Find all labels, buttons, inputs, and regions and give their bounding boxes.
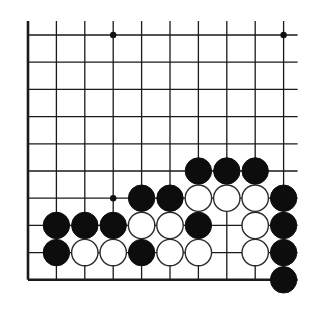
white-stone [242, 239, 268, 265]
black-stone [270, 212, 296, 238]
black-stone [214, 158, 240, 184]
black-stone [242, 158, 268, 184]
star-point [110, 32, 116, 38]
black-stone [128, 239, 154, 265]
black-stone [270, 185, 296, 211]
star-point [280, 32, 286, 38]
white-stone [157, 239, 183, 265]
white-stone [185, 239, 211, 265]
black-stone [185, 158, 211, 184]
black-stone [43, 239, 69, 265]
white-stone [185, 185, 211, 211]
go-board [0, 0, 319, 311]
white-stone [100, 239, 126, 265]
star-point [110, 195, 116, 201]
white-stone [242, 212, 268, 238]
black-stone [100, 212, 126, 238]
black-stone [157, 185, 183, 211]
white-stone [214, 185, 240, 211]
white-stone [242, 185, 268, 211]
white-stone [72, 239, 98, 265]
black-stone [72, 212, 98, 238]
white-stone [157, 212, 183, 238]
black-stone [185, 212, 211, 238]
white-stone [128, 212, 154, 238]
black-stone [43, 212, 69, 238]
black-stone [270, 239, 296, 265]
black-stone [128, 185, 154, 211]
black-stone [270, 267, 296, 293]
